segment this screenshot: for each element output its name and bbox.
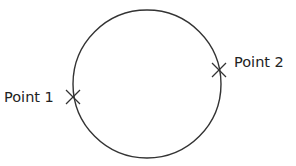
point-2-label: Point 2 <box>234 54 284 70</box>
point-1-label: Point 1 <box>4 89 54 105</box>
circle <box>73 10 221 158</box>
circle-diagram: Point 1 Point 2 <box>0 0 296 166</box>
